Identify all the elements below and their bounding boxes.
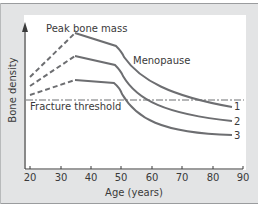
peak-bone-mass-label: Peak bone mass (46, 23, 127, 34)
bone-density-chart: 20 30 40 50 60 70 80 90 Age (years) Bone… (0, 0, 258, 213)
x-tick-label: 80 (207, 172, 220, 183)
x-axis-title: Age (years) (105, 187, 163, 198)
x-tick-label: 40 (85, 172, 98, 183)
fracture-threshold-label: Fracture threshold (30, 101, 121, 112)
x-tick-label: 20 (24, 172, 37, 183)
curve-2-label: 2 (234, 116, 240, 127)
x-tick-label: 90 (237, 172, 250, 183)
y-axis-title: Bone density (7, 57, 18, 122)
plot-area (24, 15, 246, 170)
menopause-label: Menopause (133, 55, 190, 66)
x-tick-label: 60 (146, 172, 159, 183)
x-tick-label: 50 (115, 172, 128, 183)
curve-1-label: 1 (234, 101, 240, 112)
curve-3-label: 3 (234, 130, 240, 141)
x-tick-label: 30 (55, 172, 68, 183)
x-tick-label: 70 (176, 172, 189, 183)
